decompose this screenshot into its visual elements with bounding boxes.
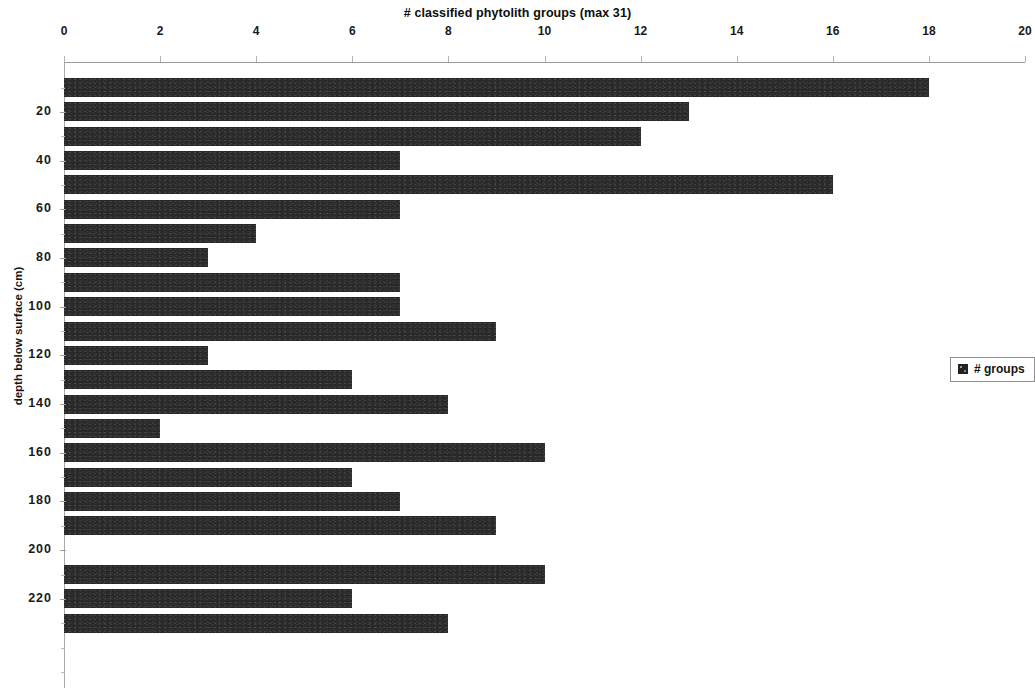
y-axis-tick-label: 180 <box>0 493 52 507</box>
y-axis-tick-label: 100 <box>0 299 52 313</box>
bar <box>64 151 400 170</box>
bar <box>64 175 833 194</box>
x-axis-line <box>64 62 1025 63</box>
y-axis-tick-label: 120 <box>0 347 52 361</box>
x-axis-tick-mark <box>448 56 449 62</box>
legend-swatch-icon <box>958 364 968 374</box>
bar <box>64 346 208 365</box>
x-axis-tick-label: 14 <box>730 24 743 38</box>
x-axis-tick-mark <box>833 56 834 62</box>
y-axis-tick-label: 160 <box>0 445 52 459</box>
x-axis-tick-mark <box>352 56 353 62</box>
x-axis-tick-labels: 02468101214161820 <box>0 24 1035 42</box>
y-axis-tick-mark <box>60 209 66 210</box>
y-axis-tick-mark <box>60 307 66 308</box>
y-axis-minor-tick-mark <box>61 234 65 235</box>
bar <box>64 395 448 414</box>
y-axis-tick-mark <box>60 501 66 502</box>
y-axis-tick-label: 20 <box>0 104 52 118</box>
x-axis-tick-mark <box>1025 56 1026 62</box>
y-axis-tick-mark <box>60 161 66 162</box>
x-axis-tick-mark <box>64 56 65 62</box>
plot-area <box>64 70 1025 684</box>
y-axis-tick-mark <box>60 258 66 259</box>
x-axis-tick-mark <box>929 56 930 62</box>
y-axis-minor-tick-mark <box>61 672 65 673</box>
y-axis-tick-label: 80 <box>0 250 52 264</box>
x-axis-tick-label: 0 <box>61 24 68 38</box>
y-axis-minor-tick-mark <box>61 185 65 186</box>
bar <box>64 492 400 511</box>
x-axis-tick-mark <box>641 56 642 62</box>
bar <box>64 614 448 633</box>
bar <box>64 200 400 219</box>
x-axis-tick-mark <box>160 56 161 62</box>
bar <box>64 516 496 535</box>
y-axis-tick-mark <box>60 404 66 405</box>
x-axis-tick-label: 18 <box>922 24 935 38</box>
y-axis-tick-mark <box>60 355 66 356</box>
y-axis-minor-tick-mark <box>61 575 65 576</box>
x-axis-tick-label: 2 <box>157 24 164 38</box>
y-axis-minor-tick-mark <box>61 526 65 527</box>
bar <box>64 224 256 243</box>
y-axis-minor-tick-mark <box>61 623 65 624</box>
chart-legend[interactable]: # groups <box>950 357 1035 382</box>
y-axis-tick-label: 40 <box>0 153 52 167</box>
y-axis-minor-tick-mark <box>61 648 65 649</box>
x-axis-tick-label: 12 <box>634 24 647 38</box>
bar <box>64 443 545 462</box>
x-axis-tick-label: 6 <box>349 24 356 38</box>
x-axis-tick-label: 20 <box>1018 24 1031 38</box>
bar <box>64 322 496 341</box>
y-axis-minor-tick-mark <box>61 477 65 478</box>
bar <box>64 248 208 267</box>
y-axis-tick-label: 60 <box>0 201 52 215</box>
bar <box>64 273 400 292</box>
y-axis-tick-mark <box>60 599 66 600</box>
x-axis-tick-label: 8 <box>445 24 452 38</box>
bar <box>64 78 929 97</box>
x-axis-tick-label: 10 <box>538 24 551 38</box>
x-axis-tick-mark <box>256 56 257 62</box>
bar <box>64 589 352 608</box>
chart-title: # classified phytolith groups (max 31) <box>0 6 1035 20</box>
bar <box>64 419 160 438</box>
legend-entry-label: # groups <box>974 362 1025 376</box>
bar <box>64 127 641 146</box>
y-axis-tick-label: 220 <box>0 591 52 605</box>
bar <box>64 370 352 389</box>
phytolith-depth-bar-chart: # classified phytolith groups (max 31) 0… <box>0 0 1035 698</box>
x-axis-tick-mark <box>545 56 546 62</box>
x-axis-tick-label: 4 <box>253 24 260 38</box>
bar <box>64 102 689 121</box>
y-axis-minor-tick-mark <box>61 380 65 381</box>
y-axis-tick-label: 140 <box>0 396 52 410</box>
y-axis-tick-label: 200 <box>0 542 52 556</box>
y-axis-minor-tick-mark <box>61 136 65 137</box>
y-axis-tick-mark <box>60 550 66 551</box>
y-axis-tick-mark <box>60 112 66 113</box>
bar <box>64 565 545 584</box>
bar <box>64 297 400 316</box>
y-axis-minor-tick-mark <box>61 428 65 429</box>
y-axis-minor-tick-mark <box>61 331 65 332</box>
bar <box>64 468 352 487</box>
x-axis-tick-mark <box>737 56 738 62</box>
y-axis-tick-mark <box>60 453 66 454</box>
x-axis-tick-label: 16 <box>826 24 839 38</box>
y-axis-minor-tick-mark <box>61 88 65 89</box>
y-axis-minor-tick-mark <box>61 282 65 283</box>
